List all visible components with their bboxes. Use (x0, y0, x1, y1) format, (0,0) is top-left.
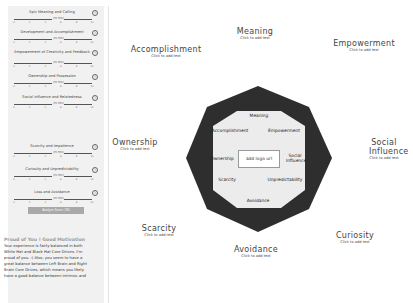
inner-label-unpredictability[interactable]: Unpredictability (268, 177, 303, 182)
inner-label-accomplishment[interactable]: Accomplishment (212, 128, 249, 133)
inner-label-meaning[interactable]: Meaning (250, 113, 269, 118)
outer-label-accomplishment[interactable]: Accomplishment Click to add text (131, 45, 202, 58)
outer-sub: Click to add text (237, 36, 273, 40)
outer-sub: Click to add text (336, 240, 374, 244)
outer-title: Scarcity (142, 224, 176, 233)
inner-label-scarcity[interactable]: Scarcity (218, 177, 236, 182)
logo-url-input[interactable]: add logo url (238, 150, 280, 168)
outer-sub: Click to add text (131, 54, 202, 58)
outer-title: Curiosity (336, 231, 374, 240)
inner-label-empowerment[interactable]: Empowerment (268, 128, 300, 133)
outer-title: Ownership (112, 138, 157, 147)
outer-title: Avoidance (234, 245, 278, 254)
inner-label-social-influence[interactable]: Social Influence (286, 153, 304, 163)
outer-label-avoidance[interactable]: Avoidance Click to add text (234, 245, 278, 258)
outer-label-meaning[interactable]: Meaning Click to add text (237, 27, 273, 40)
outer-label-empowerment[interactable]: Empowerment Click to add text (333, 39, 395, 52)
outer-sub: Click to add text (112, 147, 157, 151)
outer-sub: Click to add text (142, 233, 176, 237)
outer-label-scarcity[interactable]: Scarcity Click to add text (142, 224, 176, 237)
outer-title: Social Influence (369, 138, 399, 156)
inner-label-avoidance[interactable]: Avoidance (247, 198, 270, 203)
outer-label-curiosity[interactable]: Curiosity Click to add text (336, 231, 374, 244)
outer-sub: Click to add text (333, 48, 395, 52)
outer-sub: Click to add text (234, 254, 278, 258)
outer-label-ownership[interactable]: Ownership Click to add text (112, 138, 157, 151)
outer-sub: Click to add text (369, 156, 399, 160)
inner-label-ownership[interactable]: Ownership (210, 156, 233, 161)
outer-title: Meaning (237, 27, 273, 36)
outer-label-social-influence[interactable]: Social Influence Click to add text (369, 138, 399, 160)
outer-title: Empowerment (333, 39, 395, 48)
outer-title: Accomplishment (131, 45, 202, 54)
